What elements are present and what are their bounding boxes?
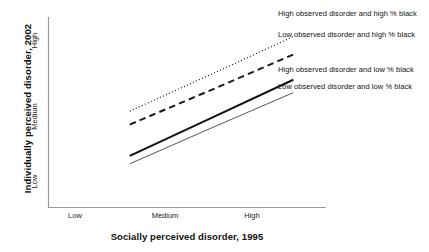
series-line-1 bbox=[130, 55, 294, 125]
chart-container: Individually perceived disorder, 2002 Hi… bbox=[0, 0, 429, 252]
legend-label-low-observed-low-black: Low observed disorder and low % black bbox=[278, 82, 412, 91]
series-line-0 bbox=[130, 37, 294, 112]
legend-label-high-observed-low-black: High observed disorder and low % black bbox=[278, 65, 414, 74]
legend-label-low-observed-high-black: Low observed disorder and high % black bbox=[278, 30, 415, 39]
series-line-2 bbox=[130, 80, 294, 156]
series-line-3 bbox=[130, 93, 294, 164]
legend-label-high-observed-high-black: High observed disorder and high % black bbox=[278, 9, 417, 18]
